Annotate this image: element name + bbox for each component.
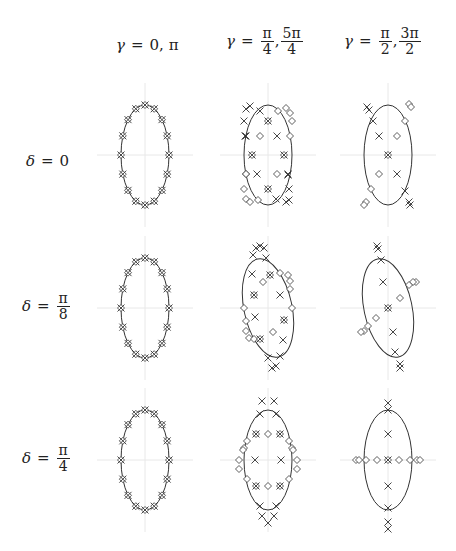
diamond-marker-icon — [396, 457, 403, 464]
diamond-marker-icon — [257, 133, 264, 140]
diamond-marker-icon — [260, 279, 267, 286]
diamond-marker-icon — [294, 466, 301, 473]
cross-marker-icon — [277, 292, 284, 299]
cross-marker-icon — [402, 188, 409, 195]
diamond-marker-icon — [275, 108, 282, 115]
diamond-marker-icon — [236, 466, 243, 473]
diamond-marker-icon — [265, 431, 272, 438]
diamond-marker-icon — [394, 133, 401, 140]
panel-r1-c2 — [340, 236, 436, 380]
cross-marker-icon — [250, 252, 257, 259]
panel-r0-c1 — [220, 83, 316, 227]
diamond-marker-icon — [287, 286, 294, 293]
ellipse-grid — [0, 0, 456, 551]
cross-marker-icon — [397, 361, 404, 368]
cross-marker-icon — [257, 503, 264, 510]
diamond-marker-icon — [294, 457, 301, 464]
cross-marker-icon — [271, 398, 278, 405]
diamond-marker-icon — [243, 328, 250, 335]
diamond-marker-icon — [373, 315, 380, 322]
diamond-marker-icon — [374, 457, 381, 464]
cross-marker-icon — [257, 108, 264, 115]
cross-marker-icon — [397, 365, 404, 372]
diamond-marker-icon — [244, 438, 251, 445]
cross-marker-icon — [273, 411, 280, 418]
panel-r2-c1 — [220, 388, 316, 532]
cross-marker-icon — [394, 171, 401, 178]
cross-marker-icon — [247, 103, 254, 110]
cross-marker-icon — [271, 513, 278, 520]
cross-marker-icon — [249, 271, 256, 278]
cross-marker-icon — [366, 107, 373, 114]
diamond-marker-icon — [243, 171, 250, 178]
cross-marker-icon — [380, 279, 387, 286]
cross-marker-icon — [254, 171, 261, 178]
diamond-marker-icon — [270, 329, 277, 336]
diamond-marker-icon — [265, 483, 272, 490]
cross-marker-icon — [376, 133, 383, 140]
cross-marker-icon — [392, 349, 399, 356]
panel-r2-c0 — [97, 388, 193, 532]
diamond-marker-icon — [274, 171, 281, 178]
diamond-marker-icon — [287, 110, 294, 117]
cross-marker-icon — [273, 196, 280, 203]
panel-r0-c2 — [340, 83, 436, 227]
panel-r1-c1 — [220, 236, 316, 380]
cross-marker-icon — [274, 133, 281, 140]
diamond-marker-icon — [244, 476, 251, 483]
cross-marker-icon — [257, 411, 264, 418]
cross-marker-icon — [273, 503, 280, 510]
cross-marker-icon — [252, 314, 259, 321]
diamond-marker-icon — [286, 476, 293, 483]
cross-marker-icon — [277, 353, 284, 360]
cross-marker-icon — [378, 257, 385, 264]
diamond-marker-icon — [241, 305, 248, 312]
cross-marker-icon — [243, 106, 250, 113]
diamond-marker-icon — [283, 105, 290, 112]
cross-marker-icon — [390, 329, 397, 336]
diamond-marker-icon — [402, 118, 409, 125]
diamond-marker-icon — [376, 171, 383, 178]
cross-marker-icon — [259, 398, 266, 405]
diamond-marker-icon — [236, 457, 243, 464]
panel-r1-c0 — [97, 236, 193, 380]
cross-marker-icon — [286, 186, 293, 193]
cross-marker-icon — [280, 337, 287, 344]
diamond-marker-icon — [368, 186, 375, 193]
cross-marker-icon — [241, 118, 248, 125]
diamond-marker-icon — [241, 186, 248, 193]
diamond-marker-icon — [286, 438, 293, 445]
panel-r2-c2 — [340, 388, 436, 533]
panel-r0-c0 — [97, 83, 193, 227]
diamond-marker-icon — [289, 118, 296, 125]
diamond-marker-icon — [365, 323, 372, 330]
cross-marker-icon — [259, 513, 266, 520]
diamond-marker-icon — [243, 318, 250, 325]
diamond-marker-icon — [397, 295, 404, 302]
cross-marker-icon — [286, 197, 293, 204]
diamond-marker-icon — [289, 305, 296, 312]
diamond-marker-icon — [287, 133, 294, 140]
